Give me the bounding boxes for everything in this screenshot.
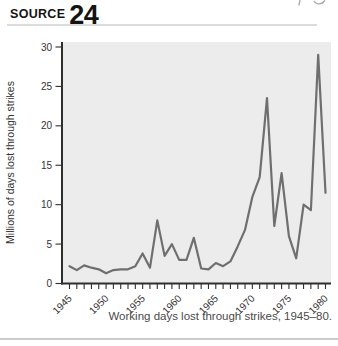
y-tick-label: 10 <box>41 199 53 210</box>
y-tick-label: 15 <box>41 160 53 171</box>
x-tick-label: 1950 <box>87 292 111 316</box>
strike-line-chart: 19451950195519601965197019751980 0510152… <box>0 0 338 346</box>
page: SOURCE24 1945195019551960196519701975198… <box>0 0 338 346</box>
y-tick-label: 30 <box>41 42 53 53</box>
bottom-rule <box>0 338 338 340</box>
y-axis-labels: 051015202530 <box>41 42 53 290</box>
y-tick-label: 25 <box>41 81 53 92</box>
y-tick-label: 0 <box>46 278 52 289</box>
y-tick-label: 20 <box>41 120 53 131</box>
y-axis-title: Millions of days lost through strikes <box>4 81 16 244</box>
y-tick-label: 5 <box>46 239 52 250</box>
x-axis-ticks <box>70 284 326 289</box>
x-tick-label: 1945 <box>50 292 74 316</box>
chart-caption: Working days lost through strikes, 1945–… <box>108 310 332 322</box>
